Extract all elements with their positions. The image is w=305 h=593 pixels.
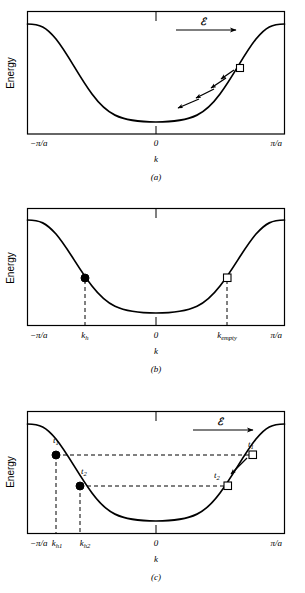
panel-a-xtick-left: −π/a xyxy=(30,138,48,148)
panel-c-hole-dot-t1 xyxy=(52,451,60,459)
panel-c-label-t2-right-sub: 2 xyxy=(217,474,221,481)
panel-b-band-curve xyxy=(28,220,285,313)
panel-c-label-t1-right-sub: 1 xyxy=(251,443,254,450)
panel-b-occupied-state-dot xyxy=(81,274,89,282)
panel-b-xtick-kh: kh xyxy=(81,330,89,341)
panel-a-drift-arrows xyxy=(178,70,234,108)
panel-c-x-axis-label: k xyxy=(154,554,159,564)
panel-a: ℰ Energy −π/a 0 π/a k (a) xyxy=(5,12,285,183)
panel-c-xtick-kh2: kh2 xyxy=(80,538,91,549)
panel-c: ℰ t1 t2 t1 t2 Energy −π/a kh1 kh2 0 π/a … xyxy=(5,412,285,583)
panel-c-label-t1-left-sub: 1 xyxy=(56,439,59,446)
panel-c-empty-state-transition-arrow xyxy=(231,458,247,474)
panel-b-xtick-kh-sub: h xyxy=(85,334,89,341)
panel-c-label-t2-left: t2 xyxy=(81,466,88,477)
band-diagram-figure: ℰ Energy −π/a 0 π/a k (a) xyxy=(0,0,305,593)
panel-b-frame xyxy=(28,209,285,326)
panel-b-x-axis-label: k xyxy=(154,346,159,356)
panel-c-xtick-center: 0 xyxy=(154,538,159,548)
panel-b: Energy −π/a kh 0 kempty π/a k (b) xyxy=(5,209,285,375)
panel-b-xtick-kempty-sub: empty xyxy=(221,334,237,341)
panel-b-xtick-kempty: kempty xyxy=(217,330,237,341)
panel-c-band-curve xyxy=(28,424,285,521)
drift-arrow-4 xyxy=(178,99,199,108)
panel-c-label-t2-left-sub: 2 xyxy=(84,470,88,477)
panel-a-band-curve xyxy=(28,24,285,122)
panel-a-xtick-center: 0 xyxy=(154,138,159,148)
panel-c-empty-square-t1 xyxy=(249,451,257,459)
panel-b-xtick-left: −π/a xyxy=(30,330,48,340)
panel-a-frame xyxy=(28,12,285,135)
panel-c-caption: (c) xyxy=(151,572,161,582)
panel-c-xtick-kh1: kh1 xyxy=(52,538,63,549)
panel-a-xtick-right: π/a xyxy=(270,138,282,148)
panel-c-label-t2-right: t2 xyxy=(214,470,221,481)
panel-a-empty-state-square xyxy=(237,65,244,72)
panel-c-y-axis-label: Energy xyxy=(5,456,16,488)
panel-c-xtick-kh1-sub: h1 xyxy=(56,542,63,549)
panel-a-y-axis-label: Energy xyxy=(5,57,16,89)
panel-b-y-axis-label: Energy xyxy=(5,252,16,284)
panel-b-xtick-center: 0 xyxy=(154,330,159,340)
panel-a-x-axis-label: k xyxy=(154,154,159,164)
panel-c-xtick-kh2-sub: h2 xyxy=(84,542,91,549)
drift-arrow-3 xyxy=(196,89,214,98)
panel-b-caption: (b) xyxy=(151,364,162,374)
panel-c-empty-square-t2 xyxy=(224,482,232,490)
panel-c-xtick-left: −π/a xyxy=(30,538,48,548)
panel-c-xtick-right: π/a xyxy=(270,538,282,548)
drift-arrow-2 xyxy=(211,78,226,88)
panel-b-xtick-right: π/a xyxy=(270,330,282,340)
panel-a-caption: (a) xyxy=(151,172,162,182)
panel-a-field-symbol: ℰ xyxy=(200,16,208,27)
panel-c-label-t1-right: t1 xyxy=(248,439,254,450)
panel-c-hole-dot-t2 xyxy=(76,482,84,490)
panel-c-field-symbol: ℰ xyxy=(217,416,225,427)
panel-b-empty-state-square xyxy=(224,274,232,282)
panel-c-label-t1-left: t1 xyxy=(53,435,59,446)
